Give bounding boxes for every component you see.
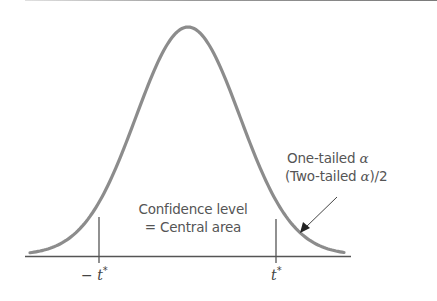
tail-label-line1: One-tailed α <box>287 150 387 166</box>
alpha-symbol: α <box>359 150 368 166</box>
center-area-label: Confidence level = Central area <box>118 201 268 235</box>
center-label-line1: Confidence level <box>118 201 268 217</box>
tail-area-label: One-tailed α (Two-tailed α)/2 <box>287 150 387 184</box>
tail-arrow <box>305 197 337 228</box>
arrowhead-icon <box>300 222 310 233</box>
tail-label-line2: (Two-tailed α)/2 <box>285 168 387 184</box>
left-critical-value-label: − t* <box>81 265 108 283</box>
right-critical-value-label: t* <box>271 265 282 283</box>
center-label-line2: = Central area <box>118 219 268 235</box>
